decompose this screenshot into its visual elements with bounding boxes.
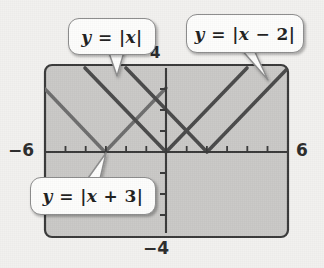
callout-abs-x-minus-2-label: y = |x − 2| bbox=[195, 24, 296, 44]
callout-abs-x: y = |x| bbox=[68, 18, 156, 55]
x-axis-min-label: −6 bbox=[8, 142, 34, 159]
y-axis-min-label: −4 bbox=[143, 240, 169, 257]
callout-abs-x-plus-3: y = |x + 3| bbox=[30, 177, 156, 215]
callout-abs-x-label: y = |x| bbox=[81, 27, 142, 47]
callout-abs-x-plus-3-label: y = |x + 3| bbox=[43, 186, 144, 206]
x-axis-max-label: 6 bbox=[296, 142, 308, 159]
callout-abs-x-minus-2: y = |x − 2| bbox=[186, 14, 304, 53]
figure-stage: −6 6 4 −4 y = |x| y = |x − 2| y = |x + 3… bbox=[0, 0, 324, 268]
